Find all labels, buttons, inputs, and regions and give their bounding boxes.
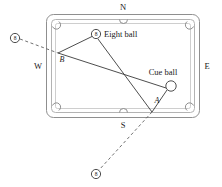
cue-ball-annotation: Cue ball xyxy=(149,67,178,77)
compass-label-south: S xyxy=(121,120,126,130)
compass-label-north: N xyxy=(120,2,126,12)
billiards-table-figure: 8 8 8 N S E W B A Eight ball Cue ball xyxy=(0,0,222,187)
ghost-eight-ball-south: 8 xyxy=(91,169,100,178)
eight-ball-annotation: Eight ball xyxy=(104,29,138,39)
ghost-eight-ball-west: 8 xyxy=(10,33,19,42)
ghost-eight-ball-south-number: 8 xyxy=(95,171,98,177)
compass-label-west: W xyxy=(34,61,42,71)
eight-ball-number: 8 xyxy=(95,31,98,37)
cue-ball-circle xyxy=(166,81,176,91)
point-label-b: B xyxy=(60,55,65,64)
cue-ball xyxy=(166,81,176,91)
dashed-line-a-to-south-ghost xyxy=(99,112,152,170)
compass-label-east: E xyxy=(204,61,209,71)
point-label-a: A xyxy=(154,96,160,105)
ghost-eight-ball-west-number: 8 xyxy=(14,35,17,41)
billiards-diagram: 8 8 8 N S E W B A Eight ball Cue ball xyxy=(0,0,222,187)
eight-ball: 8 xyxy=(91,29,100,38)
